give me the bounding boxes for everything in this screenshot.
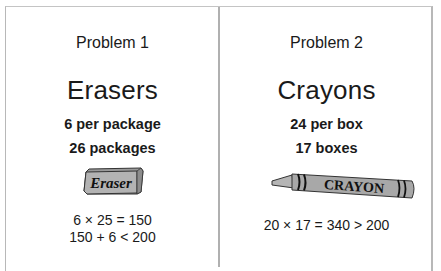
eraser-icon: Eraser: [81, 166, 145, 200]
problem-1-item: Erasers: [6, 75, 219, 106]
problem-2-item: Crayons: [220, 75, 433, 106]
problem-1-title: Problem 1: [6, 34, 219, 52]
problem-1-quantity: 26 packages: [6, 140, 219, 156]
problem-2-rate: 24 per box: [220, 116, 433, 132]
eraser-label: Eraser: [89, 175, 132, 191]
crayon-icon: CRAYON: [270, 170, 420, 206]
problem-2-quantity: 17 boxes: [220, 140, 433, 156]
problem-1-calc-2: 150 + 6 < 200: [6, 229, 219, 245]
problem-1-rate: 6 per package: [6, 116, 219, 132]
problem-2-calc-1: 20 × 17 = 340 > 200: [220, 217, 433, 233]
problem-1-calc-1: 6 × 25 = 150: [6, 212, 219, 228]
problem-2-title: Problem 2: [220, 34, 433, 52]
